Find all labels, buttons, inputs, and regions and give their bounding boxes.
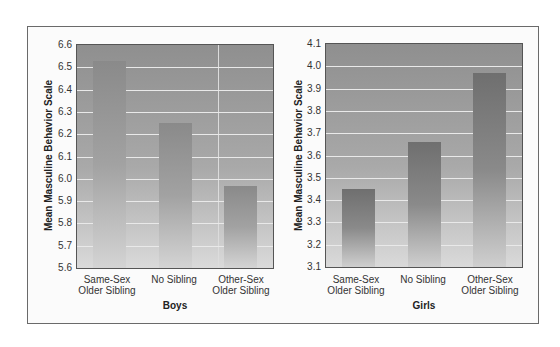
y-tick-label: 6.0 bbox=[46, 174, 72, 184]
bar bbox=[159, 123, 192, 268]
boys-x-axis-title: Boys bbox=[125, 300, 225, 311]
y-tick-label: 3.7 bbox=[295, 128, 321, 138]
y-tick-label: 3.5 bbox=[295, 173, 321, 183]
bar bbox=[473, 73, 506, 267]
y-tick-label: 6.3 bbox=[46, 107, 72, 117]
y-tick-label: 3.2 bbox=[295, 240, 321, 250]
y-tick-label: 4.1 bbox=[295, 39, 321, 49]
girls-plot-area bbox=[325, 43, 523, 268]
y-tick-label: 3.1 bbox=[295, 262, 321, 272]
y-tick-label: 3.6 bbox=[295, 151, 321, 161]
girls-category-label: Other-SexOlder Sibling bbox=[450, 274, 530, 296]
y-tick-label: 6.2 bbox=[46, 129, 72, 139]
y-tick-label: 5.9 bbox=[46, 196, 72, 206]
bar bbox=[93, 61, 126, 268]
y-tick-label: 3.9 bbox=[295, 84, 321, 94]
y-tick-label: 4.0 bbox=[295, 61, 321, 71]
y-tick-label: 6.4 bbox=[46, 85, 72, 95]
y-tick-label: 3.4 bbox=[295, 195, 321, 205]
y-tick-label: 5.8 bbox=[46, 218, 72, 228]
bar bbox=[408, 142, 441, 267]
gridline bbox=[326, 66, 522, 67]
boys-plot-area bbox=[76, 44, 274, 269]
bar bbox=[342, 189, 375, 267]
y-tick-label: 3.3 bbox=[295, 217, 321, 227]
boys-category-label: Other-SexOlder Sibling bbox=[201, 274, 281, 296]
girls-x-axis-title: Girls bbox=[374, 300, 474, 311]
y-tick-label: 6.1 bbox=[46, 152, 72, 162]
bar bbox=[224, 186, 257, 269]
y-tick-label: 5.7 bbox=[46, 241, 72, 251]
y-tick-label: 6.6 bbox=[46, 40, 72, 50]
y-tick-label: 5.6 bbox=[46, 263, 72, 273]
y-tick-label: 6.5 bbox=[46, 62, 72, 72]
y-tick-label: 3.8 bbox=[295, 106, 321, 116]
